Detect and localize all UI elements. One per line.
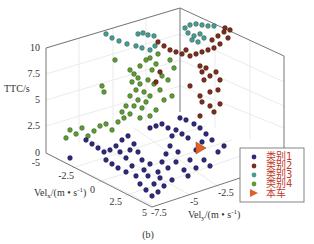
x-tick: -2.5	[58, 170, 74, 181]
x-tick: 2.5	[110, 196, 123, 207]
z-tick: 5	[35, 94, 40, 105]
z-tick: 2.5	[28, 120, 41, 131]
y-axis-label: Vely/(m • s-1)	[188, 208, 240, 222]
x-tick: 5	[142, 207, 147, 218]
x-tick: 0	[90, 184, 95, 195]
z-tick: 10	[30, 42, 40, 53]
x-tick: -5	[32, 157, 40, 168]
svg-text:本车: 本车	[266, 187, 286, 199]
z-tick: 7.5	[28, 68, 41, 79]
series-class4	[64, 52, 177, 141]
y-tick: -5	[190, 196, 198, 207]
z-axis-label: TTC/s	[4, 83, 30, 94]
y-tick: -7.5	[151, 207, 167, 218]
z-axis: 10 7.5 5 2.5 0 TTC/s	[4, 42, 40, 158]
y-tick: -2.5	[218, 187, 234, 198]
figure-caption: (b)	[142, 229, 154, 241]
scatter-3d-chart: 10 7.5 5 2.5 0 TTC/s -5 -2.5 0 2.5 5 Vel…	[0, 0, 314, 244]
legend: 类别1 类别2 类别3 类别4 本车	[240, 148, 304, 202]
x-axis-label: Velx/(m • s-1)	[34, 186, 86, 200]
